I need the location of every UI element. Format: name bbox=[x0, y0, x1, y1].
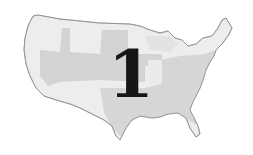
rank-numeral: 1 bbox=[108, 44, 148, 104]
